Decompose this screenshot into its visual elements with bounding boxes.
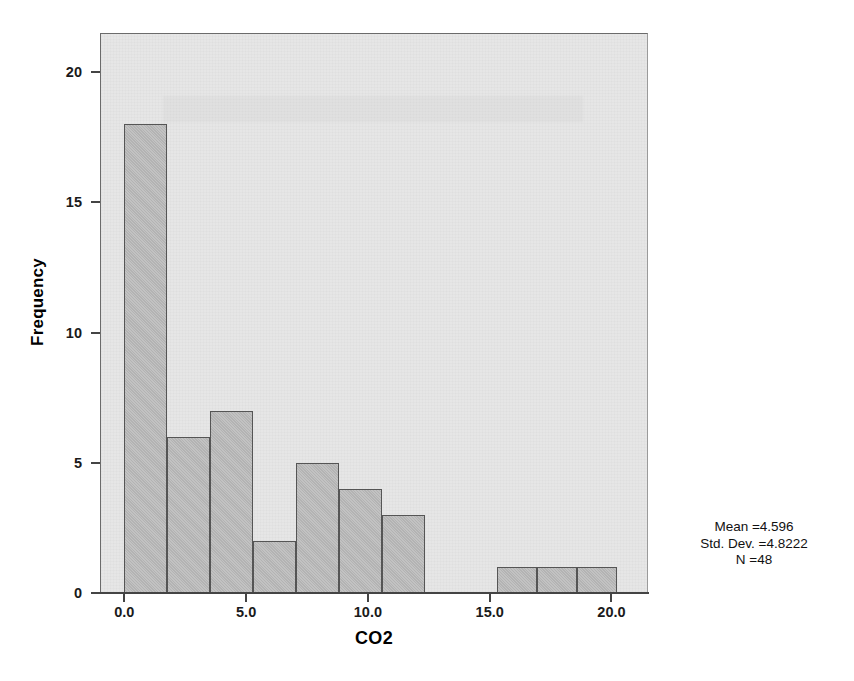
y-tick-label: 15: [66, 194, 82, 210]
x-tick-mark: [367, 593, 369, 602]
stat-std-dev: Std. Dev. =4.8222: [666, 536, 842, 553]
stat-n: N =48: [666, 552, 842, 569]
histogram-bar: [537, 567, 577, 593]
y-axis-title: Frequency: [28, 222, 48, 382]
statistics-annotation: Mean =4.596 Std. Dev. =4.8222 N =48: [666, 519, 842, 569]
x-tick-mark: [489, 593, 491, 602]
x-tick-label: 0.0: [114, 604, 134, 620]
y-tick-mark: [91, 592, 100, 594]
y-tick-label: 10: [66, 325, 82, 341]
histogram-bar: [210, 411, 253, 593]
histogram-bar: [382, 515, 425, 593]
histogram-chart: 0.05.010.015.020.0 05101520 CO2 Frequenc…: [0, 0, 854, 681]
y-tick-mark: [91, 462, 100, 464]
histogram-bar: [577, 567, 617, 593]
x-tick-label: 5.0: [236, 604, 256, 620]
histogram-bar: [497, 567, 537, 593]
y-tick-label: 0: [74, 585, 82, 601]
stat-mean: Mean =4.596: [666, 519, 842, 536]
histogram-bar: [167, 437, 210, 593]
x-tick-mark: [123, 593, 125, 602]
x-tick-label: 10.0: [354, 604, 382, 620]
y-tick-mark: [91, 71, 100, 73]
y-tick-mark: [91, 332, 100, 334]
y-tick-mark: [91, 201, 100, 203]
histogram-bar: [124, 124, 167, 593]
histogram-bar: [339, 489, 382, 593]
x-tick-mark: [610, 593, 612, 602]
x-tick-label: 20.0: [597, 604, 625, 620]
histogram-bar: [296, 463, 339, 593]
bars-layer: [100, 33, 648, 593]
x-tick-mark: [245, 593, 247, 602]
y-tick-label: 5: [74, 455, 82, 471]
histogram-bar: [253, 541, 296, 593]
y-tick-label: 20: [66, 64, 82, 80]
x-axis-title: CO2: [100, 628, 648, 649]
x-axis-line: [100, 592, 649, 594]
x-tick-label: 15.0: [476, 604, 504, 620]
